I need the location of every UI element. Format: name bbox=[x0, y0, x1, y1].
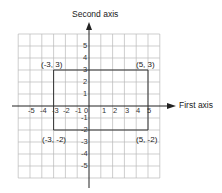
x-axis-arrow-icon bbox=[167, 103, 176, 109]
x-tick: -3 bbox=[52, 107, 59, 115]
x-tick: 3 bbox=[125, 107, 129, 115]
x-axis-title: First axis bbox=[179, 101, 213, 110]
coordinate-grid bbox=[0, 0, 222, 193]
y-tick: -4 bbox=[81, 150, 88, 158]
point-label-5-neg2: (5, -2) bbox=[136, 135, 157, 144]
y-tick: -3 bbox=[81, 138, 88, 146]
y-tick: -1 bbox=[81, 114, 88, 122]
x-tick: -5 bbox=[28, 107, 35, 115]
y-tick: 1 bbox=[83, 90, 87, 98]
x-tick: 4 bbox=[136, 107, 140, 115]
y-axis-arrow-icon bbox=[86, 22, 92, 30]
y-axis-title: Second axis bbox=[72, 10, 118, 19]
x-tick: -2 bbox=[63, 107, 70, 115]
x-tick: -4 bbox=[40, 107, 47, 115]
y-tick: -5 bbox=[81, 162, 88, 170]
point-label-5-3: (5, 3) bbox=[136, 60, 155, 69]
y-tick: 3 bbox=[83, 66, 87, 74]
y-tick: 5 bbox=[83, 42, 87, 50]
y-tick: 4 bbox=[83, 54, 87, 62]
point-label-neg3-neg2: (-3, -2) bbox=[42, 135, 66, 144]
x-tick: 2 bbox=[113, 107, 117, 115]
x-tick: 5 bbox=[147, 107, 151, 115]
point-label-neg3-3: (-3, 3) bbox=[41, 60, 62, 69]
y-tick: -2 bbox=[81, 126, 88, 134]
x-tick: 1 bbox=[102, 107, 106, 115]
y-tick: 2 bbox=[83, 78, 87, 86]
